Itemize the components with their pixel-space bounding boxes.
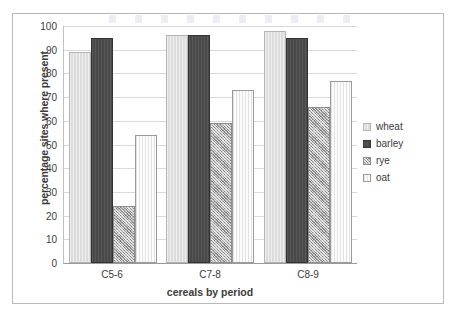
- legend-label: oat: [376, 172, 390, 183]
- x-axis-tick-labels: C5-6C7-8C8-9: [63, 269, 357, 283]
- legend-swatch-wheat-icon: [363, 123, 371, 131]
- y-axis-tick-label: 40: [31, 163, 57, 174]
- y-axis-tick-labels: 1009080706050403020100: [31, 26, 57, 263]
- x-axis-tick-label: C5-6: [67, 269, 157, 283]
- bar-barley-c5-6[interactable]: [91, 38, 113, 263]
- x-axis-tick-label: C8-9: [263, 269, 353, 283]
- bar-oat-c5-6[interactable]: [135, 135, 157, 263]
- legend-label: wheat: [376, 121, 403, 132]
- bar-oat-c7-8[interactable]: [232, 90, 254, 263]
- bar-oat-c8-9[interactable]: [330, 81, 352, 263]
- bar-group-c7-8: [166, 26, 254, 263]
- y-axis-tick-label: 10: [31, 234, 57, 245]
- legend-swatch-oat-icon: [363, 174, 371, 182]
- x-axis-tick-label: C7-8: [165, 269, 255, 283]
- legend: wheatbarleyryeoat: [363, 118, 435, 186]
- bar-rye-c5-6[interactable]: [113, 206, 135, 263]
- legend-item-oat[interactable]: oat: [363, 169, 435, 186]
- bar-barley-c7-8[interactable]: [188, 35, 210, 263]
- bar-wheat-c8-9[interactable]: [264, 31, 286, 263]
- plot-area: [63, 26, 357, 264]
- bar-barley-c8-9[interactable]: [286, 38, 308, 263]
- y-axis-tick-label: 90: [31, 44, 57, 55]
- y-axis-tick-label: 30: [31, 186, 57, 197]
- bar-rye-c7-8[interactable]: [210, 123, 232, 263]
- legend-item-wheat[interactable]: wheat: [363, 118, 435, 135]
- legend-label: barley: [376, 138, 403, 149]
- chart-frame: percentage sites where present 100908070…: [12, 13, 444, 304]
- y-axis-tick-label: 20: [31, 210, 57, 221]
- x-axis-title: cereals by period: [63, 286, 357, 298]
- bar-wheat-c7-8[interactable]: [166, 35, 188, 263]
- legend-swatch-barley-icon: [363, 140, 371, 148]
- bar-group-c8-9: [264, 26, 352, 263]
- legend-label: rye: [376, 155, 390, 166]
- cut-off-text-artifact: [109, 15, 359, 23]
- gridline: [64, 263, 357, 264]
- y-axis-tick-label: 0: [31, 258, 57, 269]
- y-axis-tick-label: 100: [31, 21, 57, 32]
- bar-group-c5-6: [69, 26, 157, 263]
- y-axis-tick-label: 60: [31, 115, 57, 126]
- y-axis-tick-label: 50: [31, 139, 57, 150]
- legend-item-rye[interactable]: rye: [363, 152, 435, 169]
- legend-item-barley[interactable]: barley: [363, 135, 435, 152]
- y-axis-tick-label: 70: [31, 92, 57, 103]
- bar-rye-c8-9[interactable]: [308, 107, 330, 263]
- legend-swatch-rye-icon: [363, 157, 371, 165]
- bar-groups: [64, 26, 357, 263]
- bar-wheat-c5-6[interactable]: [69, 52, 91, 263]
- y-axis-tick-label: 80: [31, 68, 57, 79]
